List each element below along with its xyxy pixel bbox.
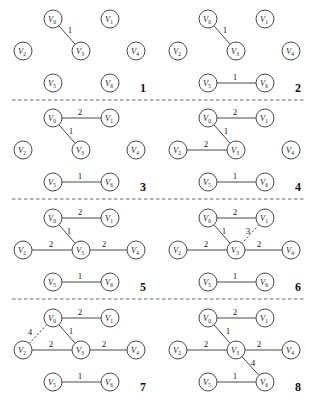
node-v5: V5 — [44, 273, 62, 291]
node-v5: V5 — [199, 273, 217, 291]
node-v6: V6 — [101, 373, 119, 391]
edge-weight-label: 2 — [233, 107, 238, 117]
edge-weight-label: 1 — [78, 171, 83, 181]
node-v0: V0 — [199, 10, 217, 28]
edge-weight-label: 2 — [204, 139, 209, 149]
edge-weight-label: 2 — [49, 239, 54, 249]
node-v0: V0 — [199, 309, 217, 327]
edge-weight-label: 2 — [204, 239, 209, 249]
node-v1: V1 — [101, 10, 119, 28]
edge-weight-label: 1 — [233, 271, 238, 281]
node-v3: V3 — [72, 141, 90, 159]
node-v1: V1 — [256, 10, 274, 28]
edge-weight-label: 1 — [78, 271, 83, 281]
edge-weight-label: 1 — [68, 25, 73, 35]
node-v3: V3 — [227, 341, 245, 359]
edge-weight-label: 1 — [69, 326, 74, 336]
node-v1: V1 — [101, 309, 119, 327]
node-v2: V2 — [14, 241, 32, 259]
node-v4: V4 — [127, 42, 145, 60]
node-v6: V6 — [256, 273, 274, 291]
edge-weight-label: 1 — [233, 371, 238, 381]
node-v4: V4 — [127, 141, 145, 159]
step-panel-8: 212241V0V1V2V3V4V5V68 — [169, 307, 301, 394]
node-v3: V3 — [72, 42, 90, 60]
edge-weight-label: 1 — [69, 126, 74, 136]
node-v6: V6 — [101, 273, 119, 291]
node-v2: V2 — [14, 141, 32, 159]
node-v1: V1 — [101, 209, 119, 227]
node-v4: V4 — [282, 141, 300, 159]
node-v6: V6 — [256, 373, 274, 391]
node-v0: V0 — [44, 109, 62, 127]
edge-weight-label: 1 — [233, 171, 238, 181]
edge-weight-label: 1 — [224, 126, 229, 136]
step-number-label: 3 — [140, 180, 146, 194]
node-v4: V4 — [127, 241, 145, 259]
edge-weight-label: 3 — [246, 226, 251, 236]
node-v0: V0 — [44, 309, 62, 327]
node-v0: V0 — [44, 209, 62, 227]
node-v2: V2 — [14, 341, 32, 359]
step-number-label: 1 — [140, 81, 146, 95]
node-v5: V5 — [44, 373, 62, 391]
edge-weight-label: 2 — [102, 339, 107, 349]
node-v6: V6 — [101, 173, 119, 191]
edge-weight-label: 2 — [78, 307, 83, 317]
edge-weight-label: 2 — [257, 339, 262, 349]
step-number-label: 5 — [140, 280, 146, 294]
node-v6: V6 — [256, 74, 274, 92]
node-v5: V5 — [44, 173, 62, 191]
figure-caption-blurred — [4, 396, 304, 404]
edge-weight-label: 1 — [67, 226, 72, 236]
edge-weight-label: 2 — [204, 339, 209, 349]
node-v2: V2 — [169, 42, 187, 60]
node-v2: V2 — [169, 241, 187, 259]
node-v3: V3 — [72, 241, 90, 259]
step-number-label: 4 — [295, 180, 301, 194]
node-v1: V1 — [256, 309, 274, 327]
node-v1: V1 — [256, 109, 274, 127]
node-v2: V2 — [169, 341, 187, 359]
node-v5: V5 — [199, 173, 217, 191]
node-v4: V4 — [282, 241, 300, 259]
node-v1: V1 — [101, 109, 119, 127]
node-v5: V5 — [199, 74, 217, 92]
step-panel-4: 2121V0V1V2V3V4V5V64 — [169, 107, 301, 194]
step-panel-6: 213221V0V1V2V3V4V5V66 — [169, 207, 301, 294]
step-number-label: 8 — [295, 380, 301, 394]
edge-weight-label: 2 — [102, 239, 107, 249]
node-v0: V0 — [44, 10, 62, 28]
step-number-label: 7 — [140, 380, 146, 394]
step-panel-2: 11V0V1V2V3V4V5V62 — [169, 10, 301, 95]
node-v0: V0 — [199, 209, 217, 227]
edge-weight-label: 2 — [257, 239, 262, 249]
edge-weight-label: 2 — [49, 339, 54, 349]
edge-weight-label: 1 — [78, 371, 83, 381]
node-v6: V6 — [101, 74, 119, 92]
edge-weight-label: 2 — [78, 107, 83, 117]
edge-weight-label: 1 — [233, 72, 238, 82]
node-v3: V3 — [227, 241, 245, 259]
kruskal-steps-diagram: 1V0V1V2V3V4V5V6111V0V1V2V3V4V5V62211V0V1… — [0, 0, 315, 406]
node-v6: V6 — [256, 173, 274, 191]
node-v4: V4 — [282, 42, 300, 60]
step-panel-5: 21221V0V1V2V3V4V5V65 — [14, 207, 146, 294]
node-v3: V3 — [227, 42, 245, 60]
edge-weight-label: 2 — [233, 207, 238, 217]
edge-weight-label: 1 — [223, 25, 228, 35]
step-number-label: 2 — [295, 81, 301, 95]
edge-weight-label: 1 — [226, 326, 231, 336]
node-v5: V5 — [44, 74, 62, 92]
node-v4: V4 — [127, 341, 145, 359]
step-panel-1: 1V0V1V2V3V4V5V61 — [14, 10, 146, 95]
node-v2: V2 — [169, 141, 187, 159]
panel-dividers — [12, 100, 305, 299]
node-v2: V2 — [14, 42, 32, 60]
node-v5: V5 — [199, 373, 217, 391]
step-panel-7: 241221V0V1V2V3V4V5V67 — [14, 307, 146, 394]
node-v0: V0 — [199, 109, 217, 127]
step-panels: 1V0V1V2V3V4V5V6111V0V1V2V3V4V5V62211V0V1… — [14, 10, 301, 394]
edge-weight-label: 2 — [233, 307, 238, 317]
edge-weight-label: 4 — [251, 358, 256, 368]
